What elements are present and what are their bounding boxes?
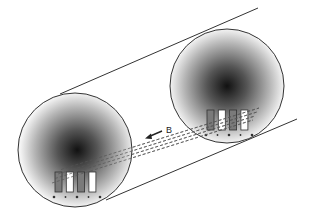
sensor-strip-dark xyxy=(55,172,62,192)
terminal-minus-icon xyxy=(217,134,219,136)
cross-section-near xyxy=(18,93,132,207)
cross-section-far xyxy=(170,29,284,143)
cylinder-diagram: B xyxy=(0,0,314,220)
terminal-plus-icon xyxy=(53,196,56,199)
terminal-plus-icon xyxy=(251,134,254,137)
field-indicator: B xyxy=(145,125,172,139)
terminal-plus-icon xyxy=(99,196,102,199)
terminal-plus-icon xyxy=(228,134,231,137)
cross-section-circle xyxy=(170,29,284,143)
terminal-plus-icon xyxy=(76,196,79,199)
terminal-minus-icon xyxy=(88,196,90,198)
arrow-head-icon xyxy=(145,134,152,140)
sensor-strip-light xyxy=(89,172,96,192)
terminal-minus-icon xyxy=(240,134,242,136)
cross-section-circle xyxy=(18,93,132,207)
terminal-minus-icon xyxy=(65,196,67,198)
field-label: B xyxy=(166,125,172,135)
